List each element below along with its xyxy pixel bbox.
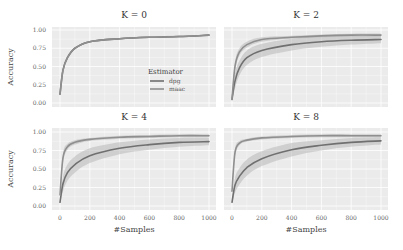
x-tick-label: 200 [84, 214, 96, 221]
x-tick-label: 1000 [373, 214, 388, 221]
y-tick-label: 1.00 [33, 128, 47, 135]
y-tick-label: 0.00 [33, 99, 47, 106]
legend-title: Estimator [148, 68, 184, 76]
facet-panel-k-8: K = 802004006008001000#Samples [224, 112, 389, 234]
x-tick-label: 400 [286, 214, 298, 221]
panel-title: K = 2 [293, 10, 319, 20]
x-tick-label: 1000 [201, 214, 216, 221]
panel-title: K = 4 [121, 112, 147, 122]
x-tick-label: 0 [58, 214, 62, 221]
y-axis-label: Accuracy [6, 150, 15, 189]
x-tick-label: 200 [256, 214, 268, 221]
panel-title: K = 0 [121, 10, 147, 20]
y-tick-label: 0.25 [33, 81, 47, 88]
x-tick-label: 0 [230, 214, 234, 221]
y-tick-label: 0.25 [33, 184, 47, 191]
x-axis-label: #Samples [113, 225, 154, 234]
y-tick-label: 0.00 [33, 202, 47, 209]
y-tick-label: 0.50 [33, 165, 47, 172]
x-tick-label: 400 [114, 214, 126, 221]
x-tick-label: 600 [316, 214, 328, 221]
facet-panel-k-0: K = 00.000.250.500.751.00Accuracy [6, 10, 216, 107]
facet-panel-k-4: K = 40.000.250.500.751.00Accuracy0200400… [6, 112, 217, 234]
y-axis-label: Accuracy [6, 48, 15, 87]
facet-chart-figure: K = 00.000.250.500.751.00AccuracyK = 2K … [0, 0, 403, 250]
y-tick-label: 0.75 [33, 147, 47, 154]
x-tick-label: 600 [144, 214, 156, 221]
panel-title: K = 8 [293, 112, 319, 122]
facet-panel-k-2: K = 2 [224, 10, 388, 107]
x-tick-label: 800 [173, 214, 185, 221]
y-tick-label: 0.50 [33, 63, 47, 70]
x-tick-label: 800 [345, 214, 357, 221]
y-tick-label: 0.75 [33, 44, 47, 51]
y-tick-label: 1.00 [33, 26, 47, 33]
chart-canvas: K = 00.000.250.500.751.00AccuracyK = 2K … [0, 0, 403, 250]
legend-label-dpg: dpg [169, 77, 181, 85]
legend-label-maac: maac [169, 85, 186, 92]
x-axis-label: #Samples [285, 225, 326, 234]
